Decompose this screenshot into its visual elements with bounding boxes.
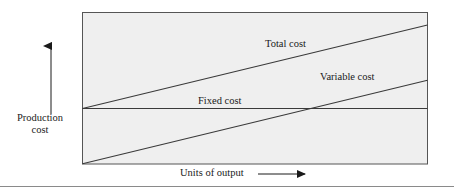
variable-cost-label: Variable cost bbox=[320, 71, 375, 83]
y-axis-label-line2: cost bbox=[4, 124, 76, 136]
fixed-cost-label: Fixed cost bbox=[198, 95, 241, 107]
y-axis-label: Production cost bbox=[4, 112, 76, 136]
x-axis-label: Units of output bbox=[180, 167, 256, 179]
total-cost-label: Total cost bbox=[265, 38, 306, 50]
cost-curves-figure: Production cost Units of output Total co… bbox=[0, 0, 454, 195]
plot-area-background bbox=[83, 13, 428, 165]
y-axis-label-line1: Production bbox=[17, 112, 63, 123]
